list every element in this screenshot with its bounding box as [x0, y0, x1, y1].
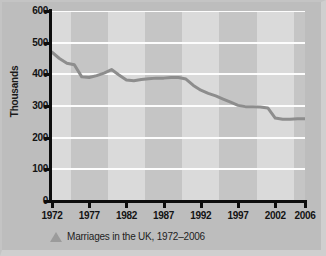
x-axis-tick-mark — [304, 201, 307, 208]
figure-panel: Thousands 0100200300400500600 1972197719… — [0, 0, 326, 256]
caption-label: Marriages in the UK, 1972–2006 — [67, 231, 205, 242]
x-axis-tick-label: 1992 — [181, 210, 221, 221]
y-axis-tick-label: 300 — [14, 101, 48, 111]
chart-caption: Marriages in the UK, 1972–2006 — [50, 231, 205, 242]
y-axis-tick-mark — [44, 137, 50, 140]
y-axis-tick-mark — [44, 10, 50, 13]
x-axis-tick-label: 1977 — [69, 210, 109, 221]
x-axis-tick-label: 1972 — [32, 210, 72, 221]
y-axis-tick-mark — [44, 168, 50, 171]
x-axis-tick-label: 1987 — [144, 210, 184, 221]
y-axis-tick-mark — [44, 200, 50, 203]
x-axis-tick-mark — [200, 201, 203, 208]
line-chart: Thousands 0100200300400500600 1972197719… — [0, 0, 326, 256]
y-axis-tick-label: 500 — [14, 38, 48, 48]
y-axis-tick-mark — [44, 105, 50, 108]
x-axis-tick-mark — [163, 201, 166, 208]
y-axis-tick-label: 200 — [14, 133, 48, 143]
y-axis-tick-mark — [44, 42, 50, 45]
x-axis-tick-mark — [125, 201, 128, 208]
x-axis-tick-mark — [51, 201, 54, 208]
x-axis-tick-mark — [237, 201, 240, 208]
x-axis-tick-mark — [274, 201, 277, 208]
y-axis-tick-label: 0 — [14, 196, 48, 206]
y-axis-tick-label: 600 — [14, 6, 48, 16]
series-line-marriages — [52, 11, 305, 201]
x-axis-tick-label: 2006 — [285, 210, 325, 221]
x-axis-tick-label: 1982 — [106, 210, 146, 221]
x-axis-tick-mark — [88, 201, 91, 208]
y-axis-tick-label: 100 — [14, 164, 48, 174]
triangle-up-icon — [50, 232, 62, 242]
x-axis-tick-label: 1997 — [218, 210, 258, 221]
y-axis-tick-mark — [44, 73, 50, 76]
plot-area — [52, 11, 305, 201]
y-axis-tick-label: 400 — [14, 69, 48, 79]
